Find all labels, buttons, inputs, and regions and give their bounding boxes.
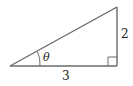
triangle-diagram: θ 3 2 xyxy=(0,0,133,86)
theta-label: θ xyxy=(43,51,50,64)
opposite-length-label: 2 xyxy=(121,27,129,41)
angle-arc xyxy=(38,52,41,66)
right-angle-marker xyxy=(108,57,117,66)
adjacent-length-label: 3 xyxy=(62,69,70,83)
hypotenuse-edge xyxy=(10,7,117,66)
